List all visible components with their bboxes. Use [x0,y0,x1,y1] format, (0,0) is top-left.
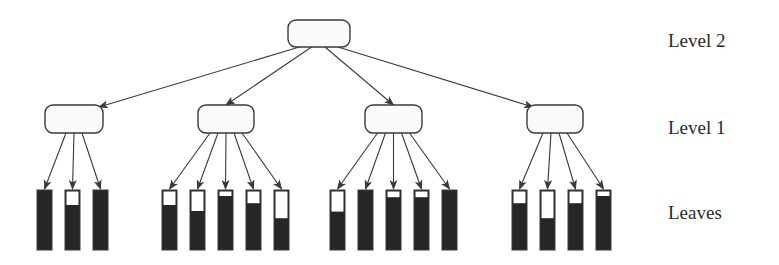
edge-l1-1-leaf-1 [45,133,67,189]
edge-root-to-l1-4 [338,47,533,107]
edge-l1-1-leaf-3 [82,133,101,189]
leaf-3-3 [386,190,401,250]
level1-node-1 [45,105,103,133]
leaf-1-2 [65,190,80,250]
leaf-4-3 [568,190,583,250]
edge-l1-3-leaf-1 [338,133,378,189]
level-2-label: Level 2 [668,30,726,52]
edge-root-to-l1-1 [99,47,299,107]
leaf-3-4 [414,190,429,250]
edge-root-to-l1-3 [325,47,394,105]
leaf-2-1 [162,190,177,250]
leaf-4-2 [540,190,555,250]
level1-node-3 [365,105,422,133]
leaf-1-3 [93,190,108,250]
edge-l1-2-leaf-1 [170,133,211,189]
leaf-3-5 [442,190,457,250]
leaf-2-2 [190,190,205,250]
edge-l1-3-leaf-4 [402,133,422,189]
level1-node-4 [527,105,583,133]
leaf-3-2 [358,190,373,250]
edge-l1-2-leaf-2 [198,133,219,189]
leaf-4-1 [512,190,527,250]
edge-l1-2-leaf-3 [226,133,227,189]
leaves-label: Leaves [668,202,722,224]
leaf-2-3 [218,190,233,250]
level-1-label: Level 1 [668,117,726,139]
edge-l1-3-leaf-5 [410,133,450,189]
edge-l1-2-leaf-4 [234,133,254,189]
edge-l1-3-leaf-2 [366,133,386,189]
root-node [288,20,350,47]
leaf-1-1 [37,190,52,250]
edges [45,47,604,189]
edge-l1-2-leaf-5 [242,133,282,189]
leaf-3-1 [330,190,345,250]
leaf-2-4 [246,190,261,250]
edge-l1-4-leaf-1 [520,133,544,189]
tree-diagram [0,0,779,265]
nodes [45,20,583,133]
level1-node-2 [198,105,254,133]
edge-l1-1-leaf-2 [73,133,75,189]
leaf-2-5 [274,190,289,250]
leaf-4-4 [596,190,611,250]
leaves [37,190,611,250]
edge-l1-4-leaf-2 [548,133,552,189]
